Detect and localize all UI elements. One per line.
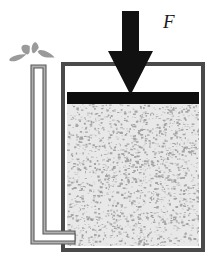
granular-material — [67, 104, 201, 247]
physics-diagram-svg — [0, 0, 213, 264]
force-label: F — [163, 12, 175, 31]
droplet-left — [8, 52, 27, 63]
droplet-upper-left — [20, 42, 33, 56]
droplet-right — [37, 48, 56, 60]
figure-canvas: F — [0, 0, 213, 264]
piston-plate — [67, 92, 199, 104]
spray-droplets — [8, 42, 55, 63]
